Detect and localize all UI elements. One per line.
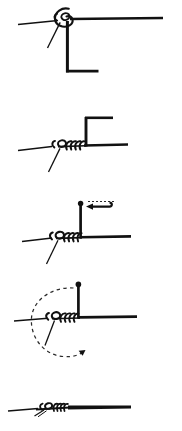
standing-line-right <box>84 145 128 146</box>
figure-background <box>0 0 182 431</box>
standing-line-right <box>70 18 163 19</box>
ball-end <box>76 282 82 288</box>
standing-line-right <box>78 317 137 318</box>
ball-end <box>78 201 83 206</box>
knot-diagram-figure: Knot tying sequence <box>0 0 182 431</box>
knot-diagram-canvas <box>0 0 182 431</box>
standing-line-right <box>80 236 131 237</box>
